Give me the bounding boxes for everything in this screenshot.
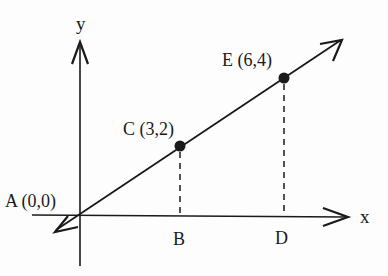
y-axis-label: y [76,13,86,34]
x-axis-label: x [360,206,370,227]
y-axis [72,42,88,266]
point-c-dot [175,141,186,152]
point-d-label: D [275,228,288,248]
point-e-label: E (6,4) [222,50,272,71]
coordinate-diagram: y x A (0,0) C (3,2) E (6,4) B D [0,0,388,276]
point-c-label: C (3,2) [123,119,174,140]
point-b-label: B [173,229,185,249]
point-a-label: A (0,0) [5,191,56,212]
point-e-dot [279,73,290,84]
line-ace [55,40,342,232]
line-arrow-upper-icon [320,40,342,61]
diagram-canvas: y x A (0,0) C (3,2) E (6,4) B D [0,0,388,276]
